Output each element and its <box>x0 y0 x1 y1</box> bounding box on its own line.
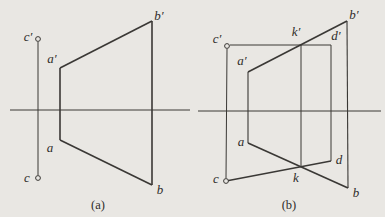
b-label-b-prime: b′ <box>349 7 359 22</box>
b-label-c: c <box>213 171 219 186</box>
a-label-b: b <box>157 182 164 197</box>
scanned-diagram-page: c′a′b′acbc′k′d′b′a′ackdb (a) (b) <box>0 0 385 217</box>
a-label-b-prime: b′ <box>154 8 164 23</box>
b-label-d: d <box>336 152 343 167</box>
b-projection-line-b-b-prime <box>347 21 348 188</box>
b-label-k-prime: k′ <box>292 24 301 39</box>
b-label-d-prime: d′ <box>331 28 341 43</box>
b-label-b: b <box>353 185 360 200</box>
figure-a-caption: (a) <box>91 198 105 213</box>
projection-diagram: c′a′b′acbc′k′d′b′a′ackdb <box>0 0 385 217</box>
a-point-c-marker <box>36 176 41 181</box>
a-label-c: c <box>24 170 30 185</box>
a-edge-a-prime-b-prime <box>60 21 152 68</box>
b-label-k: k <box>293 170 299 185</box>
a-edge-a-b <box>60 140 152 185</box>
b-label-c-prime: c′ <box>213 31 222 46</box>
b-line-c-d <box>226 161 331 181</box>
figure-b: c′k′d′b′a′ackdb <box>198 7 381 200</box>
a-label-c-prime: c′ <box>24 29 33 44</box>
figure-b-caption: (b) <box>282 198 297 213</box>
a-label-a: a <box>47 140 54 155</box>
a-point-c-prime-marker <box>36 37 41 42</box>
b-label-a: a <box>238 134 245 149</box>
b-point-c-prime-marker <box>225 44 230 49</box>
b-point-c-marker <box>224 179 229 184</box>
b-label-a-prime: a′ <box>237 53 247 68</box>
figure-a: c′a′b′acb <box>10 8 190 197</box>
a-label-a-prime: a′ <box>47 51 57 66</box>
b-projection-line-c-c-prime <box>226 49 227 178</box>
